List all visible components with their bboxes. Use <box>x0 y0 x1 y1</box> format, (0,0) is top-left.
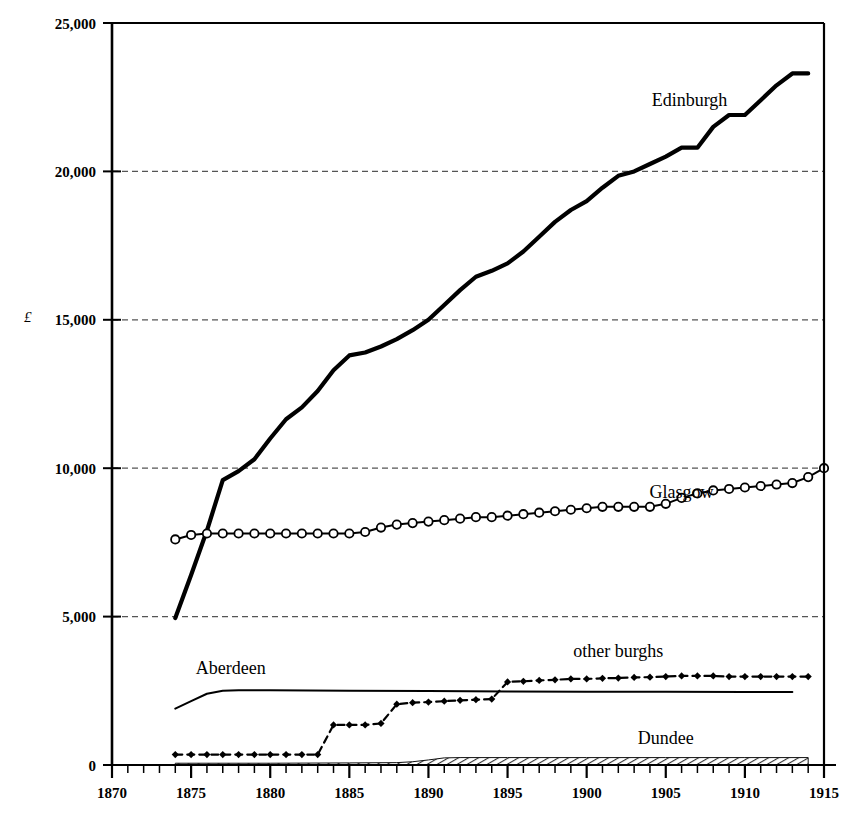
marker-open-circle <box>804 473 812 481</box>
marker-open-circle <box>582 504 590 512</box>
x-tick-label: 1910 <box>730 785 760 801</box>
y-tick-label: 25,000 <box>55 16 96 32</box>
figure-container: 05,00010,00015,00020,00025,000 187018751… <box>0 0 858 822</box>
marker-open-circle <box>345 529 353 537</box>
x-tick-label: 1915 <box>809 785 839 801</box>
series-label-other-burghs: other burghs <box>573 641 663 661</box>
y-axis-title: £ <box>24 309 32 325</box>
x-tick-label: 1890 <box>413 785 443 801</box>
y-tick-label: 10,000 <box>55 461 96 477</box>
marker-open-circle <box>187 531 195 539</box>
marker-open-circle <box>298 529 306 537</box>
marker-open-circle <box>757 482 765 490</box>
line-chart: 05,00010,00015,00020,00025,000 187018751… <box>0 0 858 822</box>
marker-open-circle <box>219 529 227 537</box>
marker-open-circle <box>646 503 654 511</box>
marker-open-circle <box>282 529 290 537</box>
x-tick-label: 1905 <box>651 785 681 801</box>
marker-open-circle <box>329 529 337 537</box>
marker-open-circle <box>503 511 511 519</box>
marker-open-circle <box>488 513 496 521</box>
marker-open-circle <box>772 480 780 488</box>
marker-open-circle <box>313 529 321 537</box>
marker-open-circle <box>535 509 543 517</box>
marker-open-circle <box>567 506 575 514</box>
chart-background <box>0 0 858 822</box>
marker-open-circle <box>361 528 369 536</box>
marker-open-circle <box>519 510 527 518</box>
series-label-dundee: Dundee <box>638 728 694 748</box>
marker-open-circle <box>456 514 464 522</box>
marker-open-circle <box>788 479 796 487</box>
marker-open-circle <box>250 529 258 537</box>
x-tick-label: 1885 <box>334 785 364 801</box>
series-label-edinburgh: Edinburgh <box>652 90 728 110</box>
y-tick-label: 5,000 <box>62 609 96 625</box>
marker-open-circle <box>472 513 480 521</box>
marker-open-circle <box>266 529 274 537</box>
marker-open-circle <box>551 507 559 515</box>
x-tick-label: 1870 <box>97 785 127 801</box>
x-tick-label: 1895 <box>493 785 523 801</box>
marker-open-circle <box>234 529 242 537</box>
marker-open-circle <box>203 529 211 537</box>
marker-open-circle <box>424 517 432 525</box>
series-label-glasgow: Glasgow <box>650 482 714 502</box>
marker-open-circle <box>630 503 638 511</box>
marker-open-circle <box>408 519 416 527</box>
marker-open-circle <box>725 485 733 493</box>
x-tick-label: 1900 <box>572 785 602 801</box>
marker-open-circle <box>171 535 179 543</box>
series-label-aberdeen: Aberdeen <box>196 658 266 678</box>
y-tick-label: 15,000 <box>55 312 96 328</box>
x-tick-label: 1875 <box>176 785 206 801</box>
marker-open-circle <box>440 516 448 524</box>
x-tick-label: 1880 <box>255 785 285 801</box>
marker-open-circle <box>393 520 401 528</box>
y-tick-label: 0 <box>89 758 97 774</box>
marker-open-circle <box>377 523 385 531</box>
marker-open-circle <box>598 503 606 511</box>
marker-open-circle <box>614 503 622 511</box>
marker-open-circle <box>741 483 749 491</box>
y-tick-label: 20,000 <box>55 164 96 180</box>
